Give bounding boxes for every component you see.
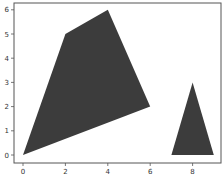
polygon-chart: 024680123456	[0, 0, 223, 176]
x-tick-label: 2	[63, 168, 67, 176]
y-tick-label: 4	[5, 55, 10, 63]
y-tick-label: 2	[5, 103, 9, 111]
y-tick-label: 3	[5, 79, 9, 87]
triangle-polygon	[171, 82, 213, 155]
x-tick-label: 6	[148, 168, 153, 176]
quadrilateral-polygon	[23, 10, 150, 155]
y-tick-label: 6	[5, 6, 10, 14]
y-tick-label: 5	[5, 31, 9, 39]
x-tick-label: 8	[190, 168, 194, 176]
y-tick-label: 1	[5, 127, 9, 135]
y-tick-label: 0	[5, 152, 9, 160]
x-tick-label: 4	[106, 168, 111, 176]
x-tick-label: 0	[21, 168, 25, 176]
